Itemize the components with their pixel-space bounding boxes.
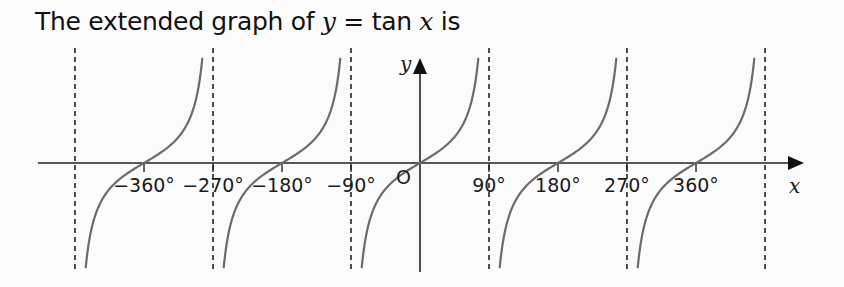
tan-graph: x y O −360°−270°−180°−90°90°180°270°360° <box>0 0 844 287</box>
x-tick-label: −360° <box>113 174 175 196</box>
axes <box>38 58 804 272</box>
x-tick-label: 90° <box>472 174 506 196</box>
x-tick-label: 180° <box>535 174 581 196</box>
x-tick-label: −270° <box>182 174 244 196</box>
y-axis-arrow-icon <box>413 58 427 74</box>
x-tick-label: −180° <box>251 174 313 196</box>
x-tick-label: 360° <box>673 174 719 196</box>
origin-label: O <box>396 166 411 188</box>
x-tick-labels: −360°−270°−180°−90°90°180°270°360° <box>113 174 719 196</box>
y-axis-label: y <box>399 52 412 76</box>
x-tick-label: 270° <box>604 174 650 196</box>
x-axis-arrow-icon <box>788 156 804 170</box>
x-axis-label: x <box>789 174 800 198</box>
x-tick-label: −90° <box>326 174 376 196</box>
